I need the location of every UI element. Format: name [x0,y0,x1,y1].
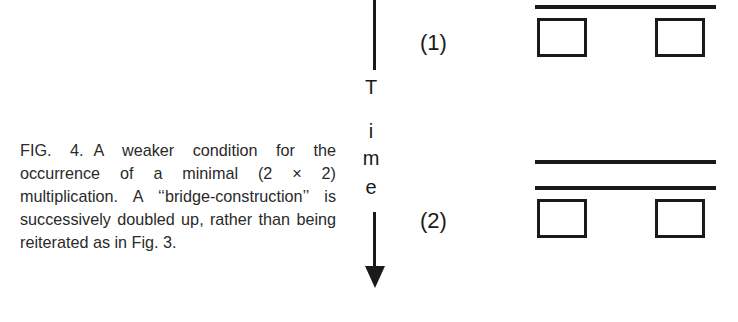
time-letter-m: m [356,147,386,170]
stage-1-label: (1) [420,30,447,56]
time-axis-line-bottom [373,212,376,270]
figure-caption: FIG. 4.A weaker condition for the occurr… [20,139,336,254]
bridge-bar-upper [535,160,716,164]
arrow-down-icon [365,266,385,288]
time-letter-e: e [356,176,386,199]
figure-label: FIG. 4. [20,141,84,159]
pier-box-left [537,18,587,57]
time-letter-i: i [356,120,386,143]
time-axis-line-top [373,0,376,70]
time-letter-t: T [356,76,386,99]
bridge-bar [535,5,716,9]
pier-box-right [655,199,705,238]
stage-2-label: (2) [420,208,447,234]
pier-box-right [655,18,705,57]
pier-box-left [537,199,587,238]
bridge-bar-lower [535,186,716,190]
